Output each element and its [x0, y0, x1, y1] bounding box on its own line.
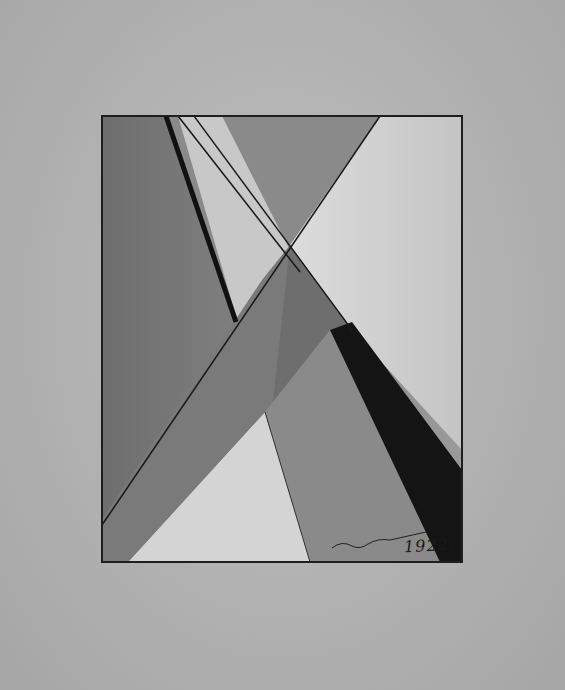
composition [102, 116, 462, 562]
geometric-drawing [0, 0, 565, 690]
date-inscription: 1922. [404, 535, 456, 557]
